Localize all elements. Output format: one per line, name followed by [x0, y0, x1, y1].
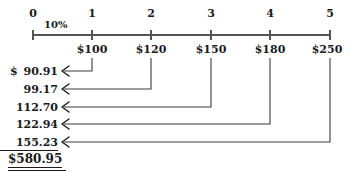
- discount-arrow-2: [64, 58, 151, 89]
- cash-flow-timeline-diagram: 0 1 2 3 4 5 10% $100 $120 $150 $180 $250: [0, 0, 351, 173]
- discount-arrow-3: [64, 58, 211, 107]
- present-value-4: 122.94: [0, 118, 58, 131]
- present-value-5: 155.23: [0, 136, 58, 151]
- present-value-1: 90.91: [0, 65, 58, 78]
- present-value-3: 112.70: [0, 101, 58, 114]
- discount-arrow-4: [64, 58, 270, 124]
- present-value-total: $580.95: [8, 152, 62, 168]
- discount-arrow-1: [64, 58, 92, 71]
- present-value-2: 99.17: [0, 83, 58, 96]
- total-double-rule: [8, 170, 66, 171]
- discount-arrow-5: [64, 58, 330, 142]
